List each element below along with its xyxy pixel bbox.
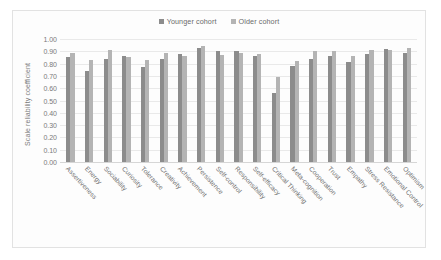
x-axis-tick-label: Trust: [327, 165, 342, 181]
x-label-slot: Assertiveness: [61, 163, 80, 243]
bar-group: [285, 39, 304, 162]
y-axis-tick-label: 0.20: [33, 134, 57, 141]
bar[interactable]: [164, 53, 168, 162]
x-label-slot: Persistence: [192, 163, 211, 243]
legend-entry-younger-cohort[interactable]: Younger cohort: [159, 17, 217, 26]
y-axis-tick-label: 0.60: [33, 85, 57, 92]
bar[interactable]: [108, 50, 112, 162]
legend-label: Older cohort: [239, 17, 280, 26]
x-axis-labels: AssertivenessEnergySociabilityCuriosityT…: [60, 163, 417, 243]
x-label-slot: Achievement: [173, 163, 192, 243]
bar-group: [379, 39, 398, 162]
x-label-slot: Stress Resistance: [360, 163, 379, 243]
y-axis-tick-label: 0.40: [33, 109, 57, 116]
bar[interactable]: [369, 50, 373, 162]
y-axis-tick-label: 0.70: [33, 72, 57, 79]
x-label-slot: Curiosity: [117, 163, 136, 243]
bar-group: [304, 39, 323, 162]
bar-group: [80, 39, 99, 162]
x-label-slot: Creativity: [154, 163, 173, 243]
x-label-slot: Cooperation: [304, 163, 323, 243]
x-label-slot: Critical Thinking: [267, 163, 286, 243]
x-label-slot: Sociability: [98, 163, 117, 243]
bar-group: [117, 39, 136, 162]
bar[interactable]: [276, 77, 280, 162]
y-axis-tick-label: 0.00: [33, 159, 57, 166]
x-label-slot: Self-control: [211, 163, 230, 243]
bar-group: [341, 39, 360, 162]
bar-group: [211, 39, 230, 162]
y-axis-title: Scale reliability coefficient: [24, 44, 31, 164]
y-axis-tick-label: 1.00: [33, 36, 57, 43]
y-axis-tick-label: 0.50: [33, 97, 57, 104]
bar[interactable]: [145, 60, 149, 162]
x-label-slot: Emotional Control: [379, 163, 398, 243]
legend-swatch-icon: [231, 19, 236, 24]
bar[interactable]: [332, 51, 336, 162]
bar[interactable]: [220, 55, 224, 162]
x-label-slot: Energy: [80, 163, 99, 243]
legend-entry-older-cohort[interactable]: Older cohort: [231, 17, 280, 26]
x-label-slot: Trust: [323, 163, 342, 243]
bar-group: [192, 39, 211, 162]
bar[interactable]: [201, 46, 205, 162]
bar-group: [98, 39, 117, 162]
x-label-slot: Tolerance: [136, 163, 155, 243]
y-axis-tick-label: 0.10: [33, 146, 57, 153]
bar-group: [397, 39, 416, 162]
bar-group: [154, 39, 173, 162]
bar[interactable]: [239, 53, 243, 162]
bar[interactable]: [257, 54, 261, 162]
x-label-slot: Empathy: [341, 163, 360, 243]
bar[interactable]: [351, 56, 355, 162]
bar-group: [229, 39, 248, 162]
x-label-slot: Self-efficacy: [248, 163, 267, 243]
bar-group: [136, 39, 155, 162]
legend-swatch-icon: [159, 19, 164, 24]
bar-group: [323, 39, 342, 162]
bars-layer: [60, 39, 417, 162]
y-axis-tick-label: 0.30: [33, 122, 57, 129]
bar[interactable]: [89, 60, 93, 162]
plot-area: Scale reliability coefficient 1.000.900.…: [60, 39, 417, 162]
legend-label: Younger cohort: [167, 17, 217, 26]
bar-group: [267, 39, 286, 162]
bar[interactable]: [126, 57, 130, 162]
x-label-slot: Meta-cognition: [285, 163, 304, 243]
bar[interactable]: [313, 51, 317, 162]
bar[interactable]: [70, 53, 74, 162]
bar-group: [61, 39, 80, 162]
chart-legend: Younger cohort Older cohort: [13, 17, 425, 26]
bar[interactable]: [407, 48, 411, 162]
x-label-slot: Optimism: [397, 163, 416, 243]
y-axis-tick-label: 0.80: [33, 60, 57, 67]
bar[interactable]: [182, 56, 186, 162]
y-axis-ticks: 1.000.900.800.700.600.500.400.300.200.10…: [33, 39, 57, 162]
bar-group: [360, 39, 379, 162]
bar-group: [248, 39, 267, 162]
x-axis-tick-label: Optimism: [402, 165, 426, 190]
y-axis-tick-label: 0.90: [33, 48, 57, 55]
bar[interactable]: [388, 50, 392, 162]
bar-group: [173, 39, 192, 162]
chart-figure: Younger cohort Older cohort Scale reliab…: [12, 10, 426, 248]
bar[interactable]: [295, 61, 299, 162]
x-label-slot: Responsibility: [229, 163, 248, 243]
